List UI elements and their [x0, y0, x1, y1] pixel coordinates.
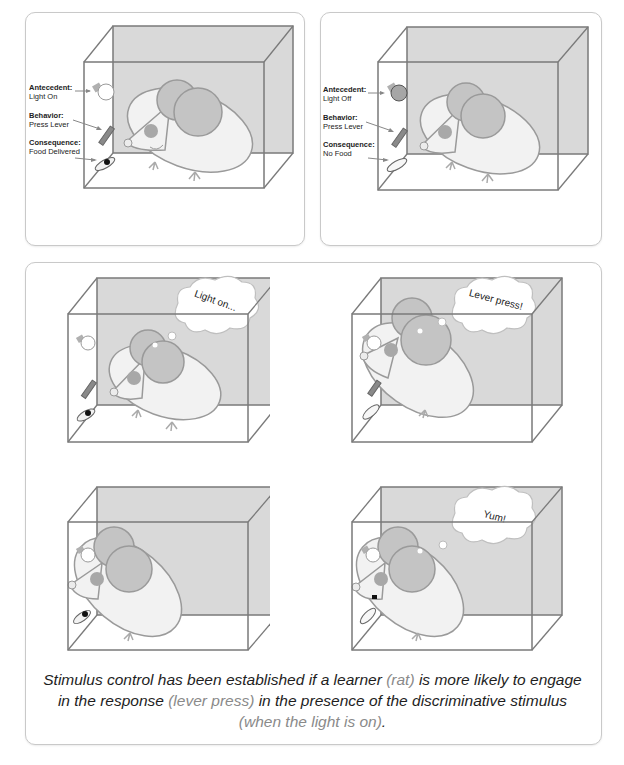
light-bulb-on-icon: [76, 334, 95, 350]
caption-highlight-learner: (rat): [386, 671, 414, 688]
caption-text: in the presence of the discriminative st…: [254, 692, 567, 709]
lever-icon-pressed: [368, 380, 381, 396]
lever-icon: [99, 126, 115, 145]
scene-yum-thought: Yum!: [340, 475, 570, 660]
scene-light-on: Antecedent: Light On Behavior: Press Lev…: [25, 12, 303, 244]
caption-highlight-stimulus: (when the light is on): [239, 713, 382, 730]
behavior-value: Press Lever: [323, 122, 364, 131]
caption-text: .: [382, 713, 386, 730]
consequence-value: No Food: [323, 149, 352, 158]
food-dish-with-pellet-icon: [93, 155, 116, 173]
food-dish-with-pellet-icon: [75, 407, 96, 424]
empty-food-dish-icon: [385, 156, 408, 174]
light-bulb-on-icon: [92, 82, 114, 100]
caption-stimulus-control: Stimulus control has been established if…: [40, 669, 585, 732]
antecedent-label: Antecedent:: [323, 85, 366, 94]
scene-light-off: Antecedent: Light Off Behavior: Press Le…: [320, 12, 600, 244]
lever-icon: [392, 128, 408, 147]
scene-eating: [50, 475, 270, 660]
behavior-label: Behavior:: [323, 113, 358, 122]
behavior-label: Behavior:: [29, 111, 64, 120]
caption-text: Stimulus control has been established if…: [43, 671, 386, 688]
light-bulb-off-icon: [387, 82, 407, 101]
behavior-value: Press Lever: [29, 120, 70, 129]
lever-icon: [81, 380, 96, 398]
consequence-value: Food Delivered: [29, 147, 80, 156]
consequence-label: Consequence:: [323, 140, 375, 149]
scene-light-on-thought: Light on...: [50, 270, 270, 450]
antecedent-label: Antecedent:: [29, 83, 72, 92]
consequence-label: Consequence:: [29, 138, 81, 147]
caption-highlight-response: (lever press): [168, 692, 254, 709]
antecedent-value: Light Off: [323, 94, 352, 103]
antecedent-value: Light On: [29, 92, 57, 101]
scene-lever-press-thought: Lever press!: [340, 270, 570, 450]
